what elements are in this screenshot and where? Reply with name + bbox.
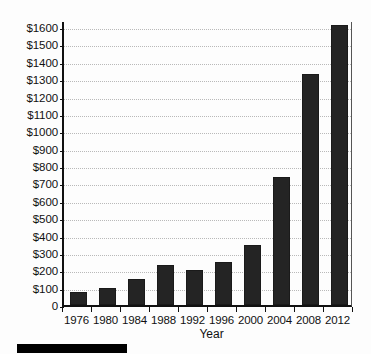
x-tick-label: 1988 [149, 314, 178, 326]
bar [70, 292, 87, 305]
y-tick-label: $200 [0, 266, 58, 278]
x-tick-label: 2012 [323, 314, 352, 326]
gridline [64, 64, 351, 65]
plot-area [62, 22, 352, 307]
x-tick-label: 1976 [62, 314, 91, 326]
y-tick-mark [60, 81, 64, 82]
x-tick-mark [149, 307, 150, 312]
y-tick-label: $1500 [0, 40, 58, 52]
x-tick-mark [207, 307, 208, 312]
y-tick-label: $700 [0, 179, 58, 191]
y-tick-mark [60, 64, 64, 65]
gridline [64, 46, 351, 47]
y-tick-label: $600 [0, 197, 58, 209]
x-tick-mark [178, 307, 179, 312]
x-tick-label: 2000 [236, 314, 265, 326]
x-axis-title: Year [0, 327, 371, 341]
y-tick-label: $900 [0, 145, 58, 157]
caption-bar [17, 344, 127, 353]
y-tick-label: $1400 [0, 58, 58, 70]
bar [302, 74, 319, 305]
x-tick-label: 1984 [120, 314, 149, 326]
bar-chart-figure: 0$100$200$300$400$500$600$700$800$900$10… [0, 0, 371, 354]
y-tick-mark [60, 133, 64, 134]
x-tick-label: 1992 [178, 314, 207, 326]
y-tick-label: $500 [0, 214, 58, 226]
x-tick-mark [62, 307, 63, 312]
y-tick-mark [60, 290, 64, 291]
bar [331, 25, 348, 305]
y-tick-mark [60, 238, 64, 239]
y-tick-label: $800 [0, 162, 58, 174]
y-tick-label: $1100 [0, 110, 58, 122]
bar [128, 279, 145, 305]
y-tick-mark [60, 46, 64, 47]
y-tick-label: $300 [0, 249, 58, 261]
y-tick-mark [60, 220, 64, 221]
x-tick-mark [265, 307, 266, 312]
bar [215, 262, 232, 305]
y-tick-mark [60, 255, 64, 256]
y-tick-mark [60, 116, 64, 117]
bar [186, 270, 203, 305]
bar [244, 245, 261, 305]
x-axis-title-text: Year [199, 327, 223, 341]
y-tick-mark [60, 29, 64, 30]
y-tick-mark [60, 185, 64, 186]
x-tick-mark [91, 307, 92, 312]
y-tick-label: $1000 [0, 127, 58, 139]
gridline [64, 29, 351, 30]
x-tick-mark [120, 307, 121, 312]
y-tick-mark [60, 203, 64, 204]
x-tick-mark [236, 307, 237, 312]
y-tick-label: $400 [0, 232, 58, 244]
x-tick-mark [323, 307, 324, 312]
y-tick-label: $100 [0, 284, 58, 296]
y-tick-label: $1600 [0, 23, 58, 35]
x-tick-label: 2008 [294, 314, 323, 326]
x-tick-mark [352, 307, 353, 312]
x-tick-label: 1996 [207, 314, 236, 326]
y-tick-mark [60, 151, 64, 152]
y-tick-mark [60, 99, 64, 100]
y-tick-mark [60, 272, 64, 273]
y-tick-mark [60, 168, 64, 169]
bar [273, 177, 290, 305]
x-tick-mark [294, 307, 295, 312]
bar [99, 288, 116, 305]
y-axis-labels: 0$100$200$300$400$500$600$700$800$900$10… [0, 0, 58, 354]
y-tick-label: $1300 [0, 75, 58, 87]
bar [157, 265, 174, 305]
x-tick-label: 2004 [265, 314, 294, 326]
x-tick-label: 1980 [91, 314, 120, 326]
y-tick-label: $1200 [0, 93, 58, 105]
